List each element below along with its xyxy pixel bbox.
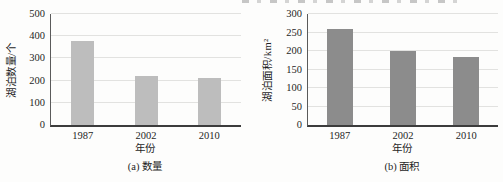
bar-2002	[135, 76, 158, 125]
y-tick-label: 300	[29, 53, 45, 63]
bar-2010	[198, 78, 221, 125]
y-tick-label: 500	[29, 9, 45, 19]
gridline	[308, 13, 498, 14]
bar-2002	[390, 51, 416, 125]
gridline	[51, 35, 241, 36]
bar-2010	[453, 57, 479, 125]
chart-caption: (b) 面积	[307, 158, 497, 173]
plot-area: 0100200300400500198720022010	[50, 14, 241, 127]
y-tick-label: 0	[40, 120, 45, 130]
y-tick-label: 0	[297, 120, 302, 130]
y-tick-label: 250	[286, 28, 302, 38]
y-axis-label: 湖泊数量/个	[3, 42, 18, 98]
plot-area: 050100150200250300198720022010	[307, 14, 498, 127]
y-tick-label: 100	[286, 83, 302, 93]
y-tick-label: 50	[292, 102, 303, 112]
y-tick-label: 200	[29, 76, 45, 86]
bar-1987	[71, 41, 94, 125]
x-axis-label: 年份	[50, 140, 240, 155]
y-tick-label: 400	[29, 31, 45, 41]
x-axis-label: 年份	[307, 140, 497, 155]
y-tick-label: 200	[286, 46, 302, 56]
y-axis-label-wrap: 湖泊面积/km²	[259, 14, 273, 125]
gridline	[51, 13, 241, 14]
y-tick-label: 150	[286, 65, 302, 75]
y-tick-label: 100	[29, 98, 45, 108]
figure-two-bar-charts: 湖泊数量/个 0100200300400500198720022010 年份 (…	[0, 0, 503, 182]
bar-1987	[327, 29, 353, 125]
y-axis-label: 湖泊面积/km²	[259, 38, 274, 101]
chart-lake-count: 湖泊数量/个 0100200300400500198720022010 年份 (…	[0, 0, 251, 182]
chart-lake-area: 湖泊面积/km² 050100150200250300198720022010 …	[252, 0, 503, 182]
y-tick-label: 300	[286, 9, 302, 19]
y-axis-label-wrap: 湖泊数量/个	[3, 14, 17, 125]
chart-caption: (a) 数量	[50, 158, 240, 173]
